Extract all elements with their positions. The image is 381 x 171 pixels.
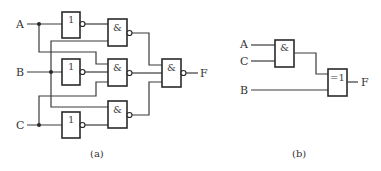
caption-b: (b) xyxy=(292,148,306,159)
input-label-b-b: B xyxy=(240,84,248,97)
diagram-b: A C B & =1 F (b) xyxy=(239,38,369,159)
svg-text:&: & xyxy=(113,104,122,115)
junction-dot-c xyxy=(37,123,41,127)
input-label-a: A xyxy=(15,18,25,31)
svg-text:1: 1 xyxy=(68,61,74,72)
svg-text:&: & xyxy=(113,62,122,73)
svg-text:1: 1 xyxy=(68,14,74,25)
not-gate-c: 1 xyxy=(62,112,108,138)
diagram-a: A B C 1 xyxy=(15,12,208,159)
nand-gate-1: & xyxy=(108,19,162,65)
input-label-c: C xyxy=(16,119,24,132)
input-label-a-b: A xyxy=(239,38,249,51)
not-gate-a: 1 xyxy=(62,12,108,38)
caption-a: (a) xyxy=(90,148,104,159)
not-gate-b: 1 xyxy=(62,59,108,85)
final-nand-gate: & xyxy=(162,59,198,87)
junction-dot-b xyxy=(49,70,53,74)
svg-text:&: & xyxy=(280,42,289,53)
svg-text:1: 1 xyxy=(68,114,74,125)
svg-text:=1: =1 xyxy=(330,72,345,83)
junction-dot-a xyxy=(37,22,41,26)
svg-text:&: & xyxy=(167,62,176,73)
logic-diagrams: A B C 1 xyxy=(0,0,381,171)
nand-gate-3: & xyxy=(108,82,162,128)
xor-gate: =1 xyxy=(328,69,358,96)
output-label-f-b: F xyxy=(361,76,369,89)
input-label-c-b: C xyxy=(240,55,248,68)
input-label-b: B xyxy=(16,66,24,79)
and-gate: & xyxy=(275,40,328,74)
svg-text:&: & xyxy=(113,22,122,33)
output-label-f: F xyxy=(200,67,208,80)
